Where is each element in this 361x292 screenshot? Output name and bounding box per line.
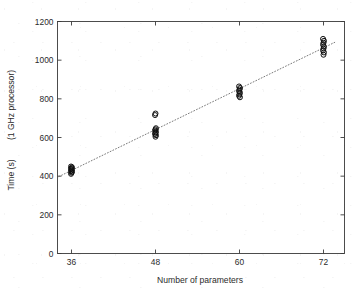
y-tick-label-600: 600 [40,133,54,143]
y-tick-label-800: 800 [40,94,54,104]
y-tick-label-200: 200 [40,210,54,220]
y-axis-title-primary: Time (s) [6,159,16,190]
y-tick-label-400: 400 [40,171,54,181]
y-tick-label-1000: 1000 [35,55,54,65]
x-tick-label-48: 48 [151,257,161,267]
y-tick-label-0: 0 [49,249,54,259]
figure-background [0,0,361,292]
x-tick-label-72: 72 [319,257,329,267]
y-axis-title-secondary: (1 GHz processor) [6,70,16,140]
chart-figure: 36486072 020040060080010001200 Number of… [0,0,361,292]
scatter-plot: 36486072 020040060080010001200 Number of… [0,0,361,292]
x-tick-label-36: 36 [67,257,77,267]
x-tick-label-60: 60 [235,257,245,267]
x-axis-title: Number of parameters [157,275,243,285]
y-tick-label-1200: 1200 [35,17,54,27]
